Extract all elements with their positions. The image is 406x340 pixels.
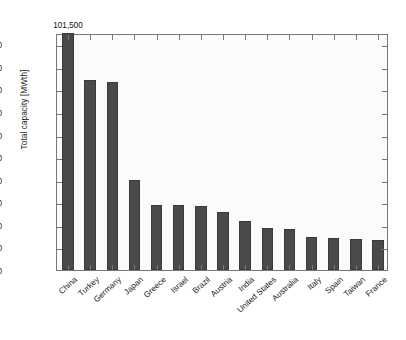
plot-area: 101,500	[56, 34, 388, 271]
bar-india	[239, 221, 251, 270]
y-tick-mark	[57, 249, 62, 250]
x-tick-mark-top	[312, 35, 313, 40]
x-tick-mark-top	[356, 35, 357, 40]
x-tick-mark-top	[157, 35, 158, 40]
bar-israel	[173, 205, 185, 270]
y-tick-mark-right	[382, 227, 387, 228]
bar-value-annotation-china: 101,500	[53, 21, 83, 30]
x-tick-mark-top	[179, 35, 180, 40]
x-tick-mark-top	[201, 35, 202, 40]
bar-austria	[217, 212, 229, 270]
x-tick-mark-top	[223, 35, 224, 40]
y-tick-label: 3,000	[0, 199, 2, 208]
bar-china	[62, 33, 74, 270]
y-tick-mark-right	[382, 159, 387, 160]
x-tick-mark	[201, 265, 202, 270]
x-tick-mark-top	[245, 35, 246, 40]
x-tick-mark-top	[68, 35, 69, 40]
y-tick-mark-right	[382, 204, 387, 205]
y-tick-mark	[57, 46, 62, 47]
x-tick-mark	[378, 265, 379, 270]
y-tick-mark-right	[382, 91, 387, 92]
y-tick-mark-right	[382, 249, 387, 250]
x-tick-mark-top	[90, 35, 91, 40]
y-tick-label: 10,000	[0, 41, 2, 50]
y-tick-label: 7,000	[0, 109, 2, 118]
y-tick-label: 1,000	[0, 244, 2, 253]
y-tick-mark	[57, 182, 62, 183]
y-tick-mark	[57, 227, 62, 228]
y-tick-mark-right	[382, 137, 387, 138]
x-tick-mark-top	[378, 35, 379, 40]
x-tick-mark	[90, 265, 91, 270]
y-tick-mark	[57, 159, 62, 160]
y-tick-label: 5,000	[0, 154, 2, 163]
bar-australia	[284, 229, 296, 270]
figure-bar-chart-solar-thermal-capacity: Total capacity [MWth] 01,0002,0003,0004,…	[0, 0, 406, 340]
y-tick-mark-right	[382, 46, 387, 47]
x-tick-mark-top	[112, 35, 113, 40]
x-tick-mark	[289, 265, 290, 270]
x-tick-mark-top	[267, 35, 268, 40]
x-tick-mark	[68, 265, 69, 270]
x-tick-mark	[157, 265, 158, 270]
y-tick-label: 2,000	[0, 221, 2, 230]
bar-brazil	[195, 206, 207, 270]
y-tick-mark	[57, 137, 62, 138]
x-tick-mark	[223, 265, 224, 270]
y-tick-mark	[57, 204, 62, 205]
y-tick-mark-right	[382, 69, 387, 70]
bar-united-states	[262, 228, 274, 270]
x-tick-mark	[245, 265, 246, 270]
y-tick-label: 8,000	[0, 86, 2, 95]
y-tick-mark	[57, 114, 62, 115]
y-tick-label: 4,000	[0, 176, 2, 185]
x-tick-mark	[179, 265, 180, 270]
y-tick-label: 9,000	[0, 63, 2, 72]
y-tick-mark-right	[382, 182, 387, 183]
bar-greece	[151, 205, 163, 270]
x-tick-mark	[112, 265, 113, 270]
x-tick-mark-top	[334, 35, 335, 40]
x-tick-mark-top	[134, 35, 135, 40]
x-tick-mark-top	[289, 35, 290, 40]
bar-turkey	[84, 80, 96, 270]
y-axis-title: Total capacity [MWth]	[20, 40, 29, 180]
x-tick-mark	[134, 265, 135, 270]
y-tick-mark-right	[382, 114, 387, 115]
y-tick-mark	[57, 91, 62, 92]
x-tick-mark	[356, 265, 357, 270]
y-tick-label: 0	[0, 267, 2, 276]
bar-germany	[107, 82, 119, 270]
x-tick-mark	[334, 265, 335, 270]
y-tick-label: 6,000	[0, 131, 2, 140]
x-tick-mark	[267, 265, 268, 270]
y-tick-mark	[57, 69, 62, 70]
bar-japan	[129, 180, 141, 270]
caption-text-clipped	[8, 334, 400, 339]
x-tick-mark	[312, 265, 313, 270]
